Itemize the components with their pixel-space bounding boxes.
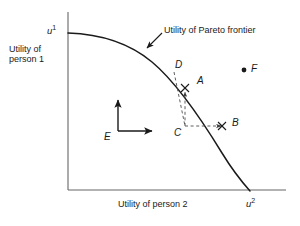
pareto-frontier-curve xyxy=(68,33,250,191)
y-axis-label-line1: Utility of xyxy=(9,44,44,54)
point-label-a: A xyxy=(197,75,204,87)
point-label-f: F xyxy=(251,63,257,75)
dashed-line-d-to-c xyxy=(174,72,185,126)
x-axis-endpoint-label: u2 xyxy=(246,197,255,210)
frontier-annotation-label: Utility of Pareto frontier xyxy=(164,25,256,35)
point-label-c: C xyxy=(174,127,181,139)
y-axis-endpoint-label: u1 xyxy=(47,24,56,37)
point-label-d: D xyxy=(175,59,182,71)
x-axis-label: Utility of person 2 xyxy=(118,199,188,209)
point-a-marker xyxy=(181,84,189,92)
y-axis-label: Utility of person 1 xyxy=(9,44,44,65)
y-axis-label-line2: person 1 xyxy=(9,54,44,64)
frontier-annotation-arrow xyxy=(147,33,162,48)
point-label-b: B xyxy=(232,117,239,129)
point-f-marker xyxy=(242,68,247,73)
pareto-frontier-figure: u1 Utility of person 1 Utility of Pareto… xyxy=(0,0,300,226)
point-label-e: E xyxy=(104,131,111,143)
